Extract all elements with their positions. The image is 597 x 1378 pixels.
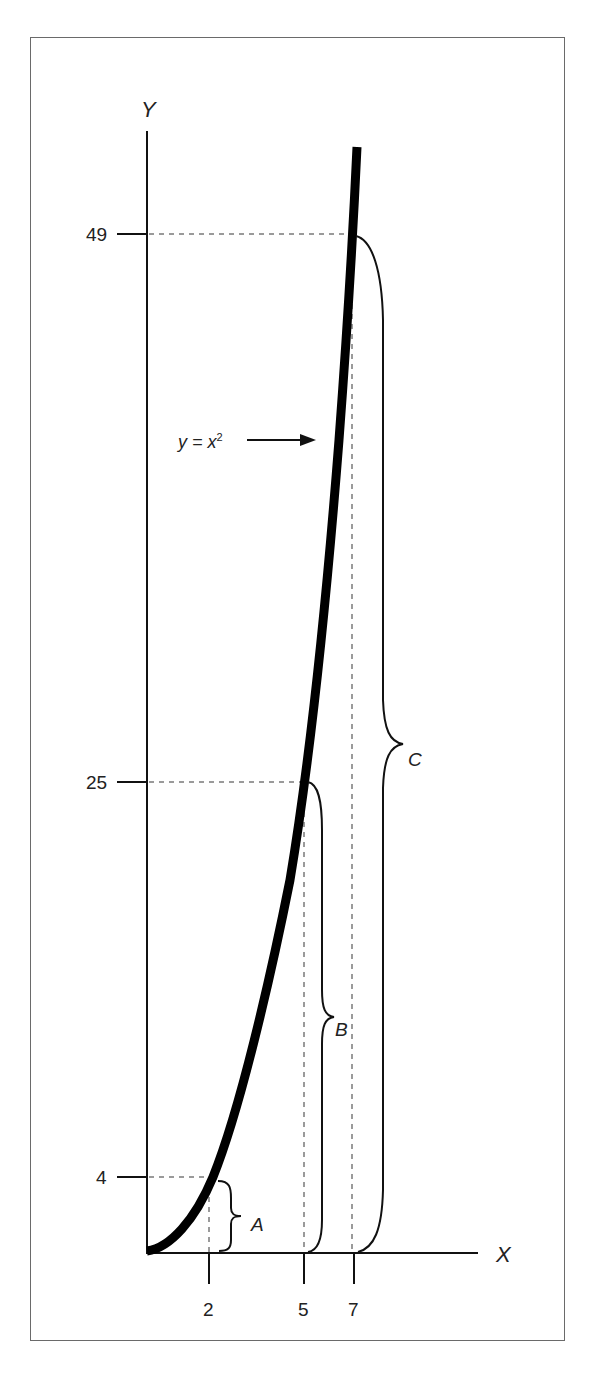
curve-label-arrow [247, 434, 316, 446]
brace-label-a: A [251, 1215, 264, 1234]
brace-c [356, 236, 403, 1252]
x-tick-5: 5 [298, 1300, 309, 1319]
y-tick-4: 4 [96, 1168, 107, 1187]
y-tick-49: 49 [86, 225, 107, 244]
curve-equation-label: y = x2 [178, 432, 223, 451]
y-tick-25: 25 [86, 773, 107, 792]
brace-a [218, 1181, 241, 1251]
x-axis-label: X [496, 1244, 511, 1266]
brace-label-b: B [335, 1020, 348, 1039]
x-tick-2: 2 [203, 1300, 214, 1319]
axes [117, 131, 478, 1284]
x-tick-7: 7 [348, 1300, 359, 1319]
brace-b [308, 782, 334, 1252]
brace-label-c: C [408, 750, 422, 769]
y-axis-label: Y [141, 99, 156, 121]
parabola-diagram [0, 0, 597, 1378]
parabola-curve [147, 147, 357, 1251]
